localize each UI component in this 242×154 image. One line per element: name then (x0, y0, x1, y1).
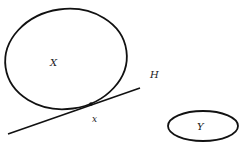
set-x-label: X (49, 57, 58, 68)
diagram-canvas: X H x Y (0, 0, 242, 154)
point-x-dot (89, 102, 93, 106)
point-x-label: x (92, 114, 97, 124)
set-x-curve (0, 1, 133, 117)
line-h-label: H (149, 69, 159, 80)
set-y-label: Y (197, 121, 205, 132)
line-h (8, 88, 140, 134)
